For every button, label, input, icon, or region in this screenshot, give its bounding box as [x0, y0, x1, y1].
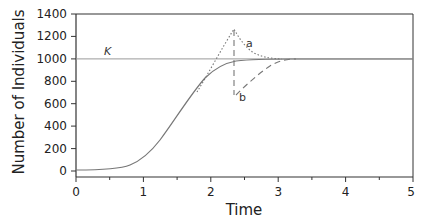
y-tick-label: 400 — [44, 119, 67, 133]
x-tick-label: 4 — [342, 185, 350, 199]
y-tick-label: 200 — [44, 142, 67, 156]
x-axis-title: Time — [225, 201, 263, 219]
y-axis-title: Number of Individuals — [10, 9, 28, 174]
k-label: K — [104, 45, 112, 58]
y-tick-label: 1200 — [36, 29, 67, 43]
y-tick-label: 1000 — [36, 52, 67, 66]
y-tick-label: 0 — [59, 164, 67, 178]
y-tick-label: 800 — [44, 74, 67, 88]
x-tick-label: 1 — [140, 185, 148, 199]
y-tick-label: 600 — [44, 97, 67, 111]
y-tick-labels: 0 200 400 600 800 1000 1200 1400 — [36, 7, 67, 178]
x-tick-label: 3 — [274, 185, 282, 199]
y-tick-label: 1400 — [36, 7, 67, 21]
x-tick-labels: 0 1 2 3 4 5 — [72, 185, 415, 199]
logistic-growth-chart: 0 200 400 600 800 1000 1200 1400 0 1 2 3… — [0, 0, 425, 223]
x-tick-label: 0 — [72, 185, 80, 199]
logistic-curve — [76, 59, 413, 170]
x-tick-label: 5 — [407, 185, 415, 199]
y-ticks — [71, 14, 76, 171]
curve-b-dashed — [234, 30, 296, 95]
x-ticks — [76, 177, 413, 182]
curve-b-label: b — [239, 91, 246, 104]
curve-a-label: a — [246, 37, 253, 50]
x-tick-label: 2 — [207, 185, 215, 199]
